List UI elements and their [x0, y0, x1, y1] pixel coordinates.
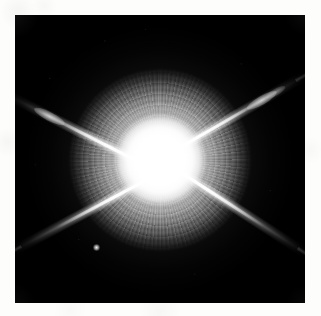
figure-page: [0, 0, 321, 316]
diffraction-spike-northeast: [154, 71, 305, 166]
faint-point-source: [93, 244, 100, 251]
star-outer-scattered-light: [15, 15, 305, 303]
spike-far-extension: [294, 19, 305, 83]
spike-knot: [32, 105, 66, 128]
sensor-noise: [15, 15, 305, 303]
spike-core: [162, 160, 264, 228]
frame-vignette: [15, 15, 305, 303]
diffraction-spike-northwest: [15, 89, 160, 177]
spike-knot: [245, 88, 279, 113]
diffraction-spike-southwest: [15, 166, 166, 256]
spike-glow: [154, 71, 305, 166]
star-halo-speckle-texture: [15, 15, 305, 303]
spike-glow: [15, 166, 166, 256]
spike-far-extension: [296, 246, 305, 303]
star-halo: [15, 15, 305, 303]
spike-glow: [160, 156, 305, 259]
astronomical-image-frame: [15, 15, 305, 303]
star-core: [15, 15, 305, 303]
spike-core: [56, 170, 163, 229]
spike-core: [50, 116, 158, 173]
spike-far-extension: [15, 244, 23, 303]
spike-core: [156, 100, 261, 163]
diffraction-spike-southeast: [160, 156, 305, 259]
spike-glow: [15, 89, 160, 177]
spike-far-extension: [15, 42, 16, 101]
spike-knot-secondary: [264, 84, 287, 101]
